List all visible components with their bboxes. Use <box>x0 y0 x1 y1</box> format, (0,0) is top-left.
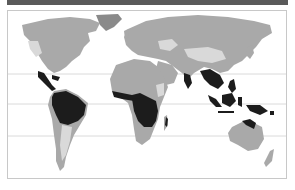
rainforest-sulawesi <box>238 97 242 107</box>
rainforest-pacific-islands <box>270 111 274 115</box>
rainforest-philippines <box>228 79 236 93</box>
rainforest-new-guinea <box>246 105 268 115</box>
header-bar <box>7 0 288 5</box>
greenland <box>96 14 122 31</box>
rainforest-caribbean <box>52 75 60 81</box>
world-map <box>7 10 287 179</box>
rainforest-java <box>218 111 234 113</box>
rainforest-borneo <box>222 93 236 107</box>
australia <box>228 121 264 151</box>
new-zealand <box>264 149 274 167</box>
rainforest-sumatra <box>208 95 222 107</box>
world-map-svg <box>8 11 287 179</box>
